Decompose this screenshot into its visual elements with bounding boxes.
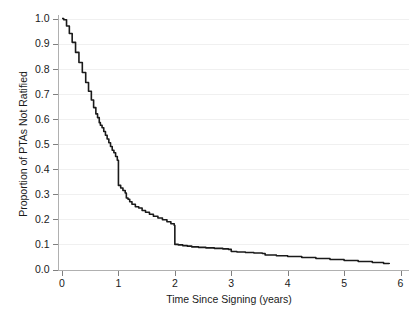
tick-marks <box>53 20 402 276</box>
y-tick-label-2: 0.2 <box>35 213 50 225</box>
y-tick-label-0: 0.0 <box>35 263 50 275</box>
y-axis-title: Proportion of PTAs Not Ratified <box>17 71 29 217</box>
survival-curve-chart: 0.00.10.20.30.40.50.60.70.80.91.0 012345… <box>0 0 417 314</box>
x-tick-label-2: 2 <box>172 277 178 289</box>
data-series-line <box>62 19 389 264</box>
y-tick-label-1: 0.1 <box>35 238 50 250</box>
x-tick-label-0: 0 <box>59 277 65 289</box>
chart-canvas: 0.00.10.20.30.40.50.60.70.80.91.0 012345… <box>0 0 417 314</box>
x-tick-label-4: 4 <box>285 277 291 289</box>
gridlines <box>58 20 409 245</box>
y-tick-label-7: 0.7 <box>35 88 50 100</box>
y-tick-label-3: 0.3 <box>35 188 50 200</box>
y-axis-tick-labels: 0.00.10.20.30.40.50.60.70.80.91.0 <box>35 12 50 275</box>
y-tick-label-10: 1.0 <box>35 12 50 24</box>
x-tick-label-5: 5 <box>341 277 347 289</box>
y-tick-label-4: 0.4 <box>35 163 50 175</box>
y-tick-label-9: 0.9 <box>35 37 50 49</box>
y-tick-label-5: 0.5 <box>35 138 50 150</box>
x-tick-label-3: 3 <box>228 277 234 289</box>
y-tick-label-6: 0.6 <box>35 113 50 125</box>
y-tick-label-8: 0.8 <box>35 63 50 75</box>
x-axis-tick-labels: 0123456 <box>59 277 403 289</box>
series-line-0 <box>62 19 389 264</box>
x-tick-label-1: 1 <box>116 277 122 289</box>
x-tick-label-6: 6 <box>398 277 404 289</box>
x-axis-title: Time Since Signing (years) <box>166 293 292 305</box>
